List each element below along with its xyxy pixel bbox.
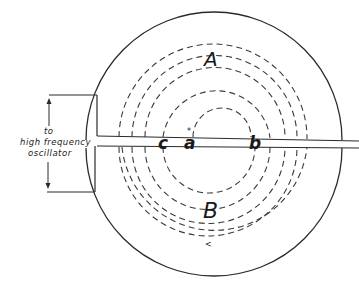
- dee-label-a: A: [202, 47, 218, 71]
- oscillator-label-line1: to: [44, 126, 54, 136]
- oscillator-label-line2: high frequency: [20, 137, 92, 147]
- arrow-up-icon: [47, 98, 52, 104]
- point-label-c: c: [158, 133, 168, 153]
- cyclotron-diagram: A B c a * b < to high frequency oscillat…: [0, 0, 359, 285]
- arrow-down-icon: [46, 183, 51, 189]
- oscillator-label-line3: oscillator: [28, 148, 72, 158]
- point-label-b: b: [249, 133, 261, 153]
- direction-arrow: <: [205, 240, 212, 249]
- point-marker: *: [187, 127, 191, 136]
- dee-gap: [97, 136, 359, 148]
- dee-label-b: B: [203, 198, 218, 223]
- point-label-a: a: [184, 133, 195, 153]
